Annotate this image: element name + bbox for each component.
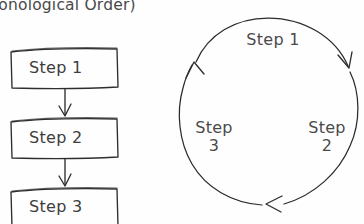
flowchart-arrow-1 [59, 89, 71, 116]
flowchart-box-label-2: Step 2 [29, 128, 83, 147]
cycle-label-step-2-line2: 2 [296, 137, 358, 155]
cycle-label-step-3-line2: 3 [183, 137, 245, 155]
cycle-label-step-3-line1: Step [195, 118, 233, 137]
flowchart-box-label-3: Step 3 [29, 197, 83, 216]
cycle-label-step-3: Step 3 [183, 119, 245, 155]
cycle-label-step-1-line1: Step 1 [246, 30, 300, 49]
flowchart-box-label-1: Step 1 [29, 58, 83, 77]
diagram-canvas: hronological Order) [0, 0, 364, 224]
cycle-arrowhead-bottom [266, 196, 282, 212]
cycle-label-step-1: Step 1 [228, 31, 318, 49]
cycle-label-step-2: Step 2 [296, 119, 358, 155]
flowchart-arrow-2 [59, 159, 71, 186]
cycle-label-step-2-line1: Step [308, 118, 346, 137]
